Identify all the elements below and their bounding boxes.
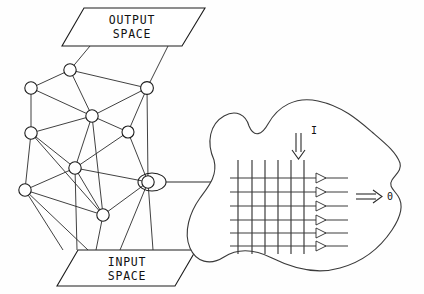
output-space-label-line2: SPACE	[113, 27, 152, 41]
input-space-panel: INPUT SPACE	[57, 250, 196, 286]
network-node[interactable]	[25, 82, 37, 94]
highlighted-node[interactable]	[138, 173, 166, 191]
network-node[interactable]	[64, 64, 76, 76]
network-receptive-field-diagram: OUTPUT SPACE INPUT SPACE	[0, 0, 424, 294]
receptive-field-blob	[187, 100, 401, 271]
network-node[interactable]	[97, 209, 109, 221]
diagram-canvas: OUTPUT SPACE INPUT SPACE	[0, 0, 424, 294]
network-node[interactable]	[69, 162, 81, 174]
input-space-label-line2: SPACE	[108, 269, 147, 283]
network-edges	[25, 46, 168, 250]
network-node[interactable]	[122, 126, 134, 138]
highlighted-node-circle[interactable]	[142, 176, 154, 188]
network-node[interactable]	[19, 184, 31, 196]
input-space-label-line1: INPUT	[108, 255, 147, 269]
network-node[interactable]	[141, 82, 154, 95]
output-space-label-line1: OUTPUT	[109, 13, 155, 27]
output-space-panel: OUTPUT SPACE	[62, 8, 205, 46]
blob-outline	[187, 100, 401, 271]
network-node[interactable]	[25, 127, 37, 139]
output-flow-label: 0	[387, 191, 393, 202]
input-flow-label: I	[311, 125, 317, 136]
network-node[interactable]	[86, 110, 98, 122]
